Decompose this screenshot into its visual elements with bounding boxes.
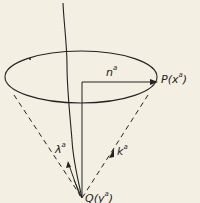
- label-lambda: λa: [55, 143, 66, 155]
- cone-right-edge: [82, 95, 148, 198]
- converging-line-1: [74, 180, 82, 198]
- ellipse-marker: [29, 58, 31, 60]
- label-n: na: [106, 66, 117, 78]
- worldline-curve: [63, 3, 82, 198]
- label-Q: Q(ya): [85, 192, 113, 203]
- lambda-arrowhead-icon: [66, 161, 71, 168]
- label-P: P(xa): [161, 73, 187, 85]
- k-arrowhead-icon: [109, 148, 114, 158]
- cone-left-edge: [14, 95, 82, 198]
- light-cone-diagram: [0, 0, 200, 203]
- cone-base-ellipse: [5, 51, 157, 103]
- label-k: ka: [117, 145, 128, 157]
